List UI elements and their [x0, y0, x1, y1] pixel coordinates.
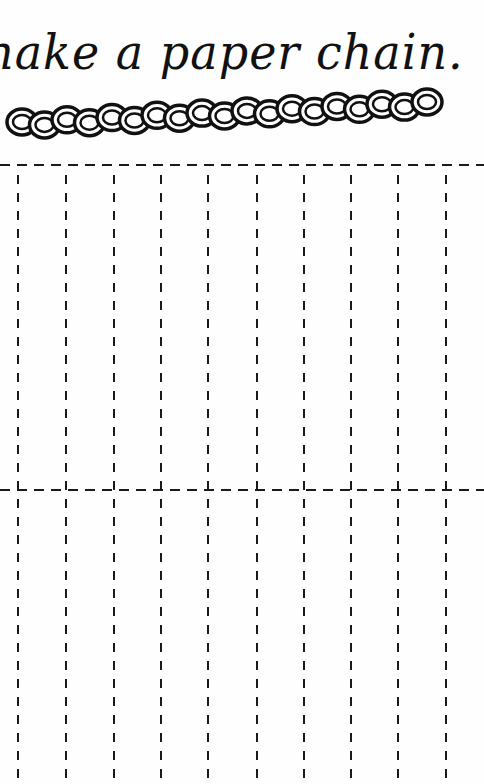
- paper-chain-worksheet: nake a paper chain.: [0, 0, 484, 784]
- dashed-cut-grid: [0, 0, 484, 784]
